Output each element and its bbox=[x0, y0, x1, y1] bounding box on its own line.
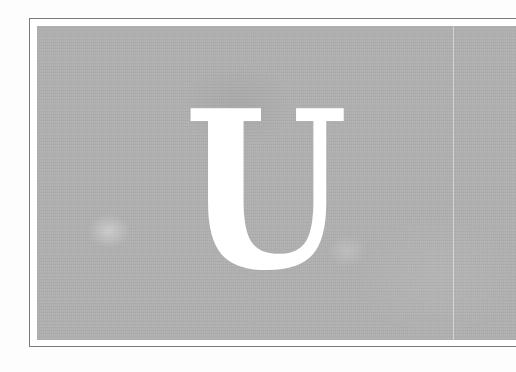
large-letter: U bbox=[184, 80, 322, 300]
page: U bbox=[0, 0, 516, 372]
vertical-seam-line bbox=[453, 26, 454, 340]
gray-textured-panel: U bbox=[37, 26, 516, 340]
